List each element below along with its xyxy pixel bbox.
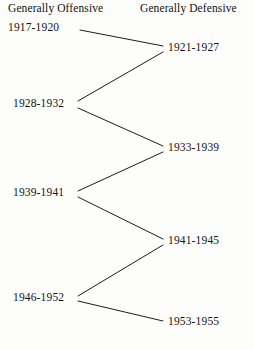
connector-line-n6-n7 bbox=[78, 245, 163, 296]
node-label-1941-1945: 1941-1945 bbox=[168, 234, 219, 246]
column-header-offensive: Generally Offensive bbox=[8, 2, 103, 14]
node-label-1946-1952: 1946-1952 bbox=[13, 291, 64, 303]
connector-line-n5-n6 bbox=[78, 197, 163, 239]
node-label-1933-1939: 1933-1939 bbox=[168, 141, 219, 153]
connector-line-n2-n3 bbox=[78, 52, 163, 101]
node-label-1917-1920: 1917-1920 bbox=[8, 21, 59, 33]
connector-line-n7-n8 bbox=[78, 301, 163, 321]
node-label-1953-1955: 1953-1955 bbox=[168, 315, 219, 327]
connector-line-n4-n5 bbox=[78, 152, 163, 191]
node-label-1939-1941: 1939-1941 bbox=[13, 186, 64, 198]
connector-line-n3-n4 bbox=[78, 108, 163, 146]
column-header-defensive: Generally Defensive bbox=[140, 2, 237, 14]
node-label-1921-1927: 1921-1927 bbox=[168, 41, 219, 53]
connector-line-n1-n2 bbox=[80, 30, 163, 46]
zigzag-timeline-diagram: Generally Offensive Generally Defensive … bbox=[0, 0, 254, 350]
node-label-1928-1932: 1928-1932 bbox=[13, 97, 64, 109]
